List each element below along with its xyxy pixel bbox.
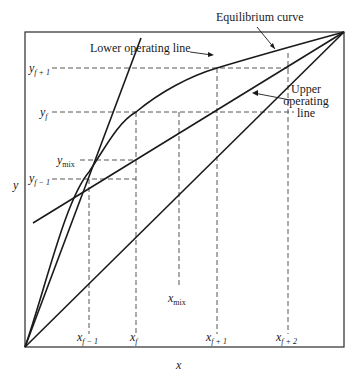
- y-axis-label: y: [12, 178, 19, 192]
- upper-op-arrowhead: [252, 90, 258, 96]
- y-tick-y-f-plus-1: yf + 1: [28, 61, 50, 77]
- lower-op-arrowhead: [208, 52, 214, 57]
- x-tick-x-f-plus-1: xf + 1: [205, 330, 227, 346]
- upper-operating-line-label-3: line: [297, 106, 315, 120]
- x-tick-x-f-minus-1: xf − 1: [76, 330, 98, 346]
- y-tick-y-f: yf: [39, 105, 49, 121]
- upper-operating-line: [33, 32, 344, 223]
- x-tick-x-f-plus-2: xf + 2: [275, 330, 297, 346]
- equilibrium-curve-label: Equilibrium curve: [216, 10, 304, 24]
- x-axis-label: x: [175, 358, 182, 372]
- y-tick-y-f-minus-1: yf − 1: [28, 171, 50, 187]
- x-tick-x-mix: xmix: [167, 291, 186, 307]
- y-tick-y-mix: ymix: [56, 153, 75, 169]
- x-tick-x-f: xf: [129, 330, 139, 346]
- mccabe-thiele-diagram: Equilibrium curve Lower operating line U…: [0, 0, 360, 381]
- lower-operating-line-label: Lower operating line: [90, 41, 191, 55]
